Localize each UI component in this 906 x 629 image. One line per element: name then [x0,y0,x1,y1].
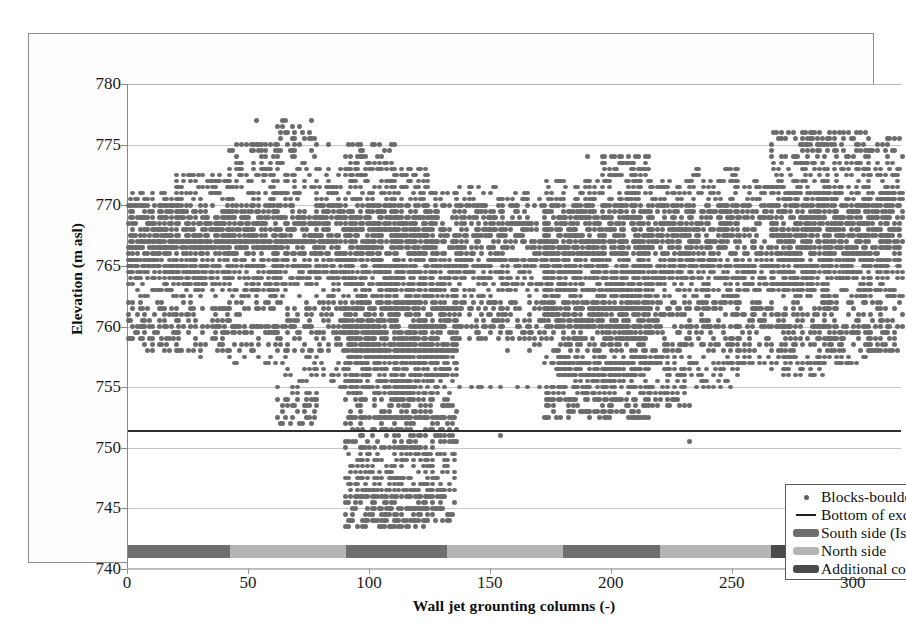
data-point [849,227,854,232]
data-point [539,203,544,208]
data-point [365,476,370,481]
data-point [295,312,300,317]
data-point [488,294,493,299]
data-point [360,191,365,196]
data-point [544,355,549,360]
data-point [297,336,302,341]
data-point [769,209,774,214]
data-point [798,294,803,299]
data-point [266,300,271,305]
data-point [413,209,418,214]
data-point [411,464,416,469]
data-point [895,173,900,178]
data-point [358,391,363,396]
data-point [447,258,452,263]
data-point [798,191,803,196]
data-point [880,179,885,184]
data-point [858,348,863,353]
data-point [525,203,530,208]
data-point [887,167,892,172]
data-point [428,403,433,408]
data-point [573,227,578,232]
data-point [242,258,247,263]
data-point [696,167,701,172]
data-point [384,433,389,438]
data-point [203,203,208,208]
data-point [353,239,358,244]
data-point [164,342,169,347]
y-tick-label-745: 745 [65,499,121,516]
data-point [580,233,585,238]
data-point [786,167,791,172]
data-point [370,197,375,202]
data-point [747,330,752,335]
data-point [675,397,680,402]
data-point [259,251,264,256]
data-point [878,173,883,178]
data-point [128,264,133,269]
data-point [312,154,317,159]
data-point [326,306,331,311]
data-point [428,409,433,414]
data-point [612,391,617,396]
data-point [300,130,305,135]
data-point [406,524,411,529]
data-point [140,282,145,287]
data-point [198,294,203,299]
data-point [735,294,740,299]
data-point [387,506,392,511]
data-point [145,306,150,311]
data-point [387,148,392,153]
data-point [716,233,721,238]
data-point [237,312,242,317]
data-point [900,312,905,317]
data-point [326,167,331,172]
data-point [442,385,447,390]
data-point [491,245,496,250]
data-point [600,373,605,378]
data-point [595,300,600,305]
data-point [404,458,409,463]
data-point [609,312,614,317]
data-point [271,245,276,250]
data-point [900,324,905,329]
data-point [868,197,873,202]
data-point [735,227,740,232]
data-point [232,342,237,347]
data-point [566,355,571,360]
data-point [675,379,680,384]
data-point [805,185,810,190]
data-point [181,324,186,329]
data-point [372,336,377,341]
data-point [728,348,733,353]
data-point [430,458,435,463]
data-point [667,403,672,408]
plot-area: Blocks-bouldersBottom of excavationSouth… [127,84,901,569]
data-point [699,373,704,378]
data-point [343,397,348,402]
data-point [292,136,297,141]
data-point [708,330,713,335]
data-point [184,288,189,293]
data-point [602,294,607,299]
data-point [234,179,239,184]
data-point [188,300,193,305]
data-point [488,276,493,281]
data-point [442,251,447,256]
data-point [607,179,612,184]
data-point [750,318,755,323]
data-point [829,312,834,317]
data-point [704,233,709,238]
data-point [331,300,336,305]
data-point [619,154,624,159]
data-point [314,142,319,147]
data-point [549,209,554,214]
data-point [752,264,757,269]
data-point [225,203,230,208]
data-point [312,185,317,190]
data-point [706,197,711,202]
data-point [336,336,341,341]
bottom-of-excavation-line [128,430,901,432]
data-point [534,288,539,293]
data-point [302,185,307,190]
